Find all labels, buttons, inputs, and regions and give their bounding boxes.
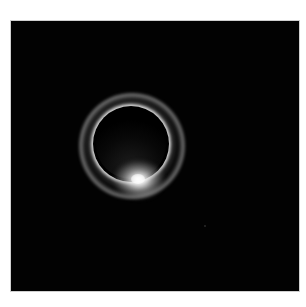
cropped-caption-text bbox=[0, 0, 306, 5]
faint-star bbox=[204, 225, 206, 227]
diamond-ring-highlight bbox=[131, 174, 145, 184]
eclipse-photo bbox=[10, 20, 300, 292]
